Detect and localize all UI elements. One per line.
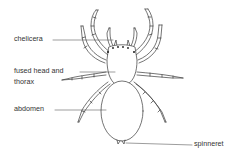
label-fused-head-thorax-line1: fused head and bbox=[14, 67, 64, 76]
label-abdomen: abdomen bbox=[14, 105, 44, 114]
spider-diagram: chelicera fused head and thorax abdomen … bbox=[0, 0, 240, 159]
spider-illustration bbox=[0, 0, 240, 159]
label-spinneret: spinneret bbox=[194, 140, 224, 149]
label-fused-head-thorax-line2: thorax bbox=[14, 78, 34, 87]
pedipalp-left bbox=[107, 28, 113, 46]
leg-second-left bbox=[81, 26, 106, 63]
label-chelicera: chelicera bbox=[14, 35, 43, 44]
spinneret-leader-line bbox=[126, 143, 192, 145]
pedipalp-right bbox=[131, 28, 137, 46]
leg-second-right bbox=[138, 25, 162, 63]
leg-third-left bbox=[62, 72, 106, 80]
abdomen bbox=[101, 81, 143, 141]
leg-third-right bbox=[137, 72, 183, 78]
cephalothorax bbox=[107, 45, 137, 86]
